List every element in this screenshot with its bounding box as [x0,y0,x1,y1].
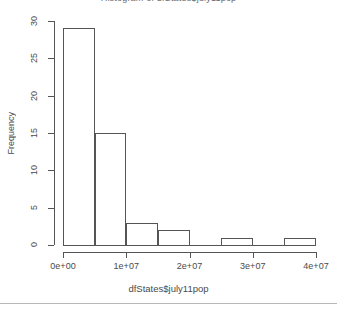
y-axis-tick-label: 30 [22,13,46,29]
x-axis-tick [190,252,191,258]
histogram-plot: Histogram of dfStates$july11pop Frequenc… [0,0,337,314]
y-axis-tick-label-text: 25 [30,53,39,63]
y-axis-tick-label: 20 [22,88,46,104]
bar-baseline [63,245,316,246]
y-axis-tick [48,208,54,209]
y-axis-tick-label-text: 5 [30,205,39,210]
plot-area [63,21,316,245]
histogram-bar [221,238,253,245]
x-axis-tick [126,252,127,258]
x-axis-tick-label: 1e+07 [96,261,156,271]
y-axis-tick-label: 15 [22,125,46,141]
y-axis-tick [48,96,54,97]
y-axis-tick-label-text: 0 [30,242,39,247]
y-axis-tick [48,245,54,246]
x-axis-tick [253,252,254,258]
x-axis-tick-label: 4e+07 [286,261,337,271]
y-axis-tick [48,170,54,171]
y-axis-label: Frequency [4,0,18,266]
histogram-bar [95,133,127,245]
x-axis-tick-label: 2e+07 [160,261,220,271]
y-axis-tick [48,21,54,22]
chart-title: Histogram of dfStates$july11pop [0,0,337,3]
histogram-bar [126,223,158,245]
y-axis-tick-label: 10 [22,162,46,178]
histogram-bar [158,230,190,245]
y-axis-tick-label-text: 20 [30,91,39,101]
panel-divider [0,303,337,304]
y-axis-label-text: Frequency [6,112,16,155]
y-axis-tick-label-text: 30 [30,16,39,26]
x-axis-label: dfStates$july11pop [0,283,337,294]
x-axis-tick [63,252,64,258]
histogram-bar [63,28,95,245]
y-axis-tick-label: 5 [22,200,46,216]
y-axis-tick [48,133,54,134]
x-axis-tick-label: 3e+07 [223,261,283,271]
y-axis-tick [48,58,54,59]
histogram-bar [284,238,316,245]
y-axis-tick-label-text: 15 [30,128,39,138]
y-axis-tick-label-text: 10 [30,165,39,175]
y-axis-line [54,21,55,245]
x-axis-tick [316,252,317,258]
x-axis-tick-label: 0e+00 [33,261,93,271]
y-axis-tick-label: 25 [22,50,46,66]
y-axis-tick-label: 0 [22,237,46,253]
